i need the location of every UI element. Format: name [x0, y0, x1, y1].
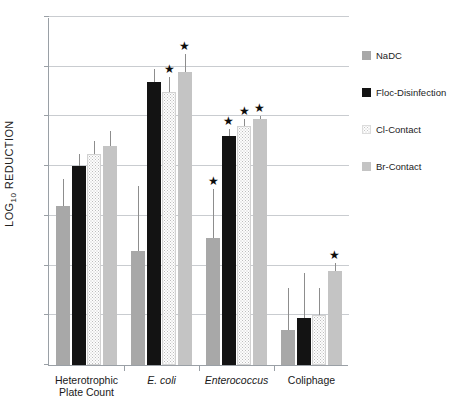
- significance-star-icon: ★: [239, 105, 250, 117]
- legend-swatch-icon: [362, 125, 371, 134]
- error-bar: [213, 189, 214, 239]
- bar-br[interactable]: [328, 271, 342, 365]
- bar-floc[interactable]: [222, 136, 236, 365]
- legend-label: Floc-Disinfection: [376, 87, 446, 98]
- legend-item-nadc[interactable]: NaDC: [362, 50, 458, 61]
- x-axis-label: Coliphage: [274, 374, 349, 386]
- legend-item-br[interactable]: Br-Contact: [362, 161, 458, 172]
- chart-figure: LOG10 REDUCTION 01234567 ★★★★★★★ Heterot…: [0, 0, 460, 400]
- error-bar: [169, 77, 170, 92]
- bar-cl[interactable]: [312, 315, 326, 365]
- legend-label: Br-Contact: [376, 161, 421, 172]
- x-tick-mark: [124, 366, 125, 371]
- plot-area: 01234567 ★★★★★★★ HeterotrophicPlate Coun…: [48, 18, 348, 366]
- error-bar: [94, 141, 95, 153]
- error-bar: [335, 263, 336, 270]
- bar-floc[interactable]: [147, 82, 161, 365]
- legend-swatch-icon: [362, 88, 371, 97]
- bar-br[interactable]: [103, 146, 117, 365]
- bar-group: ★: [274, 17, 349, 365]
- error-bar: [244, 119, 245, 126]
- significance-star-icon: ★: [254, 102, 265, 114]
- bar-br[interactable]: [178, 72, 192, 365]
- x-axis-label: HeterotrophicPlate Count: [49, 374, 124, 398]
- x-tick-mark: [199, 366, 200, 371]
- bar-floc[interactable]: [297, 318, 311, 365]
- x-axis-label-line: Plate Count: [49, 386, 124, 398]
- error-bar: [110, 131, 111, 146]
- bar-nadc[interactable]: [131, 251, 145, 365]
- x-axis-label-line: Heterotrophic: [49, 374, 124, 386]
- error-bar: [79, 154, 80, 166]
- y-axis-title-tail: REDUCTION: [2, 121, 14, 193]
- y-axis-title: LOG10 REDUCTION: [2, 0, 18, 348]
- bar-nadc[interactable]: [206, 238, 220, 365]
- y-axis-title-main: LOG: [2, 203, 14, 227]
- bar-cl[interactable]: [162, 92, 176, 365]
- x-tick-mark: [274, 366, 275, 371]
- legend-swatch-icon: [362, 162, 371, 171]
- bar-nadc[interactable]: [281, 330, 295, 365]
- error-bar: [260, 116, 261, 118]
- error-bar: [304, 273, 305, 318]
- significance-star-icon: ★: [329, 249, 340, 261]
- significance-star-icon: ★: [208, 175, 219, 187]
- bar-cl[interactable]: [237, 126, 251, 365]
- bar-nadc[interactable]: [56, 206, 70, 365]
- bar-group: ★★★★: [199, 17, 274, 365]
- bar-cl[interactable]: [87, 154, 101, 365]
- x-axis-label-line: E. coli: [124, 374, 199, 386]
- significance-star-icon: ★: [223, 115, 234, 127]
- error-bar: [138, 186, 139, 251]
- error-bar: [63, 179, 64, 206]
- legend-swatch-icon: [362, 51, 371, 60]
- legend-item-cl[interactable]: Cl-Contact: [362, 124, 458, 135]
- legend-label: NaDC: [376, 50, 402, 61]
- bar-group: [49, 17, 124, 365]
- legend-label: Cl-Contact: [376, 124, 421, 135]
- x-axis-label-line: Coliphage: [274, 374, 349, 386]
- error-bar: [154, 69, 155, 81]
- error-bar: [319, 288, 320, 315]
- x-axis-label-line: Enterococcus: [199, 374, 274, 386]
- bar-br[interactable]: [253, 119, 267, 365]
- bar-group: ★★: [124, 17, 199, 365]
- significance-star-icon: ★: [164, 63, 175, 75]
- error-bar: [288, 288, 289, 330]
- legend-item-floc[interactable]: Floc-Disinfection: [362, 87, 458, 98]
- significance-star-icon: ★: [179, 40, 190, 52]
- x-axis-label: E. coli: [124, 374, 199, 386]
- y-axis-title-subscript: 10: [9, 193, 18, 203]
- error-bar: [229, 129, 230, 136]
- bar-floc[interactable]: [72, 166, 86, 365]
- error-bar: [185, 54, 186, 71]
- x-axis-label: Enterococcus: [199, 374, 274, 386]
- chart-legend: NaDCFloc-DisinfectionCl-ContactBr-Contac…: [362, 50, 458, 198]
